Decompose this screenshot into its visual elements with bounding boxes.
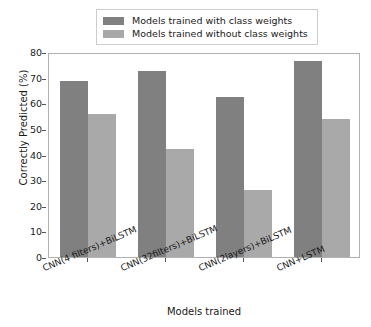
bar [294, 61, 322, 257]
bar [138, 71, 166, 257]
legend-entry-with-class-weights: Models trained with class weights [103, 14, 311, 27]
bar-chart-figure: Models trained with class weights Models… [0, 0, 371, 327]
y-axis-title: Correctly Predicted (%) [18, 38, 29, 218]
x-axis-title: Models trained [48, 306, 360, 317]
y-axis-tick-mark [42, 258, 46, 259]
y-axis-tick-mark [42, 207, 46, 208]
legend-entry-without-class-weights: Models trained without class weights [103, 27, 311, 40]
legend-label-without-class-weights: Models trained without class weights [132, 27, 308, 40]
y-axis-tick-mark [42, 130, 46, 131]
bar [322, 119, 350, 257]
bar-group [216, 54, 272, 257]
y-axis-tick-mark [42, 53, 46, 54]
chart-legend: Models trained with class weights Models… [96, 9, 318, 45]
bar-group [294, 54, 350, 257]
x-axis-tick-labels: CNN(4 filters)+BiLSTMCNN(32filters)+BiLS… [48, 258, 368, 308]
bar [216, 97, 244, 257]
bar-group [138, 54, 194, 257]
legend-label-with-class-weights: Models trained with class weights [132, 14, 292, 27]
y-axis-tick-mark [42, 181, 46, 182]
bar-group [60, 54, 116, 257]
y-axis-tick-mark [42, 232, 46, 233]
legend-swatch-without-class-weights [103, 30, 124, 38]
y-axis-tick-mark [42, 104, 46, 105]
y-axis-tick-mark [42, 79, 46, 80]
y-axis-tick-mark [42, 156, 46, 157]
bar [60, 81, 88, 257]
legend-swatch-with-class-weights [103, 17, 124, 25]
